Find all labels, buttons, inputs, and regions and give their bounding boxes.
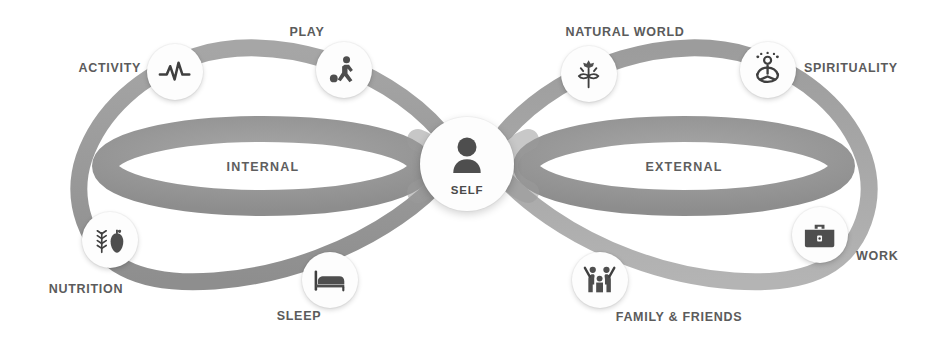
self-label: SELF bbox=[451, 184, 484, 196]
wheat-apple-icon bbox=[90, 220, 129, 259]
internal-loop-label: INTERNAL bbox=[227, 160, 300, 174]
soccer-player-icon bbox=[324, 50, 363, 89]
plant-flower-icon bbox=[569, 54, 608, 93]
self-node[interactable] bbox=[420, 117, 514, 211]
node-natural-world-label: NATURAL WORLD bbox=[565, 26, 684, 39]
node-activity-label: ACTIVITY bbox=[78, 62, 141, 75]
external-loop-label: EXTERNAL bbox=[646, 160, 723, 174]
node-sleep[interactable] bbox=[302, 252, 358, 308]
node-activity[interactable] bbox=[147, 44, 203, 100]
node-nutrition[interactable] bbox=[82, 212, 138, 268]
node-spirituality[interactable] bbox=[740, 42, 796, 98]
node-nutrition-label: NUTRITION bbox=[49, 283, 123, 296]
bed-icon bbox=[310, 260, 349, 299]
node-work-label: WORK bbox=[856, 250, 898, 263]
node-family-friends-label: FAMILY & FRIENDS bbox=[616, 311, 743, 324]
family-raised-arms-icon bbox=[580, 260, 619, 299]
briefcase-icon bbox=[800, 215, 839, 254]
person-icon bbox=[450, 137, 484, 175]
node-spirituality-label: SPIRITUALITY bbox=[804, 62, 898, 75]
node-play[interactable] bbox=[316, 42, 372, 98]
node-family-friends[interactable] bbox=[572, 252, 628, 308]
node-sleep-label: SLEEP bbox=[277, 310, 322, 323]
node-play-label: PLAY bbox=[290, 26, 325, 39]
meditation-lotus-icon bbox=[748, 50, 787, 89]
heartbeat-pulse-icon bbox=[155, 52, 194, 91]
wellbeing-infinity-diagram: INTERNAL EXTERNAL SELF ACTIVITY PLAY bbox=[0, 0, 951, 342]
node-natural-world[interactable] bbox=[561, 46, 617, 102]
node-work[interactable] bbox=[792, 207, 848, 263]
